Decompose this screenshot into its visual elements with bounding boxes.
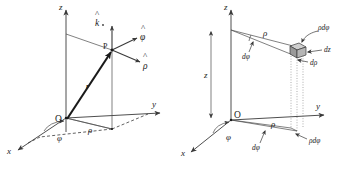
phi-hat-base-letter: φ: [140, 32, 145, 42]
k-hat-label: ^ k: [95, 9, 104, 28]
dphi-label-lower: dφ: [252, 143, 260, 152]
point-p-marker: [111, 49, 114, 52]
x-axis-right: [191, 120, 231, 152]
x-axis-label-left: x: [6, 146, 11, 156]
right-diagram-cylindrical-volume-element: z y x O z ρ ρ φ ρdφ dz dρ dφ dφ ρdφ: [179, 0, 358, 169]
rho-hat-base-letter: ρ: [142, 61, 148, 71]
dphi-leader-upper: [249, 42, 253, 52]
phi-hat-arrow: [112, 38, 137, 50]
figure-canvas: z y x O P r ρ φ ^ k ^ φ ^ ρ: [0, 0, 358, 169]
plane-edge-dashed-left: [28, 137, 40, 143]
volume-element-box: [290, 43, 306, 58]
rho-hat-arrow: [112, 50, 140, 62]
z-axis-label-left: z: [58, 2, 63, 12]
rho-hat-label: ^ ρ: [142, 51, 148, 71]
origin-label-left: O: [55, 114, 62, 124]
lower-wedge-edge-2: [231, 120, 291, 128]
z-axis-label-right: z: [223, 2, 228, 12]
rho-dphi-label-upper: ρdφ: [317, 23, 329, 32]
rho-label-lower: ρ: [270, 119, 276, 129]
origin-marker-right: [230, 119, 232, 121]
phi-label-left: φ: [57, 133, 62, 143]
rho-dphi-label-lower: ρdφ: [308, 136, 320, 145]
rho-label-upper: ρ: [262, 28, 268, 38]
rho-label-left: ρ: [87, 125, 93, 135]
x-axis-label-right: x: [180, 148, 185, 158]
y-axis-label-left: y: [151, 99, 156, 109]
k-hat-subscript-dot: [102, 24, 104, 26]
k-hat-base-letter: k: [95, 18, 100, 28]
rho-dphi-leader-lower: [296, 134, 307, 139]
y-axis-label-right: y: [315, 101, 320, 111]
z-height-label: z: [203, 70, 208, 80]
left-diagram-cylindrical-unit-vectors: z y x O P r ρ φ ^ k ^ φ ^ ρ: [0, 0, 179, 169]
upper-wedge-edge-2: [231, 30, 293, 55]
rho-hat-circumflex: ^: [143, 51, 148, 61]
drho-label: dρ: [310, 58, 318, 67]
rho-dphi-leader-upper: [302, 31, 318, 42]
plane-edge-dashed-right: [112, 114, 148, 129]
dz-label: dz: [324, 45, 331, 54]
plane-edge-dashed-bottom: [40, 129, 112, 137]
projection-foot-marker: [111, 128, 113, 130]
origin-label-right: O: [234, 110, 241, 120]
point-p-label: P: [103, 42, 108, 51]
dphi-label-upper: dφ: [242, 52, 250, 61]
dz-leader: [308, 50, 322, 52]
phi-label-right: φ: [226, 132, 231, 142]
phi-hat-label: ^ φ: [140, 23, 146, 42]
y-axis-right: [231, 115, 324, 120]
dphi-leader-lower: [260, 131, 265, 143]
y-axis-left: [66, 113, 160, 118]
origin-marker-left: [65, 117, 67, 119]
